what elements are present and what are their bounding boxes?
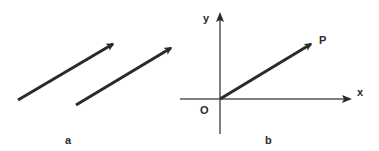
panel-a-caption: a bbox=[65, 134, 72, 146]
panel-b: y P x O b bbox=[180, 12, 364, 146]
point-p-label: P bbox=[319, 34, 326, 46]
vector-op bbox=[220, 44, 311, 99]
panel-b-caption: b bbox=[265, 134, 272, 146]
panel-a: a bbox=[18, 44, 171, 146]
y-axis-label: y bbox=[203, 12, 210, 24]
vector-diagram: a y P x O b bbox=[0, 0, 379, 151]
x-axis-label: x bbox=[357, 86, 364, 98]
origin-label: O bbox=[200, 104, 209, 116]
